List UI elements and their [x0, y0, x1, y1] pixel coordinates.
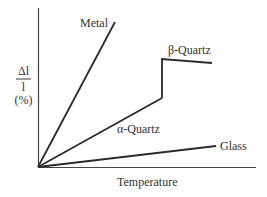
beta-quartz-label: β-Quartz — [168, 43, 211, 57]
y-axis-label-unit: (%) — [15, 93, 33, 107]
x-axis-label: Temperature — [117, 175, 177, 189]
glass-line — [38, 146, 216, 167]
glass-label: Glass — [220, 139, 247, 153]
thermal-expansion-diagram: Metal β-Quartz α-Quartz Glass Temperatur… — [0, 0, 267, 197]
beta-quartz-line — [162, 59, 212, 98]
y-axis-label-denominator: l — [22, 80, 26, 94]
metal-label: Metal — [80, 16, 109, 30]
alpha-quartz-label: α-Quartz — [117, 122, 160, 136]
y-axis-label-numerator: Δl — [18, 64, 30, 78]
